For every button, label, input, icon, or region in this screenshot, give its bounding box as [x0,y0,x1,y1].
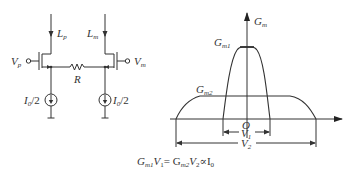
y-axis-label: Gm [254,15,267,29]
gm2-curve [176,96,316,119]
left-transistor [26,14,51,70]
gm1-label: Gm1 [214,36,231,50]
right-input-terminal-icon [125,59,129,63]
degeneration-resistor [50,64,107,70]
left-source-label: I0/2 [23,94,40,108]
gm2-label: Gm2 [196,83,213,97]
resistor-zigzag-icon [70,64,84,70]
right-current-label: Lm [86,27,98,41]
differential-pair-circuit: Lp Lm Vp Vm R I0/2 I0/2 [11,14,146,118]
right-source-label: I0/2 [112,94,129,108]
left-input-terminal-icon [26,59,30,63]
right-current-source [99,67,111,118]
left-current-source [45,67,57,118]
right-transistor [105,14,130,70]
figure-canvas: Lp Lm Vp Vm R I0/2 I0/2 Gm Gm1 Gm2 O V1 [0,0,354,180]
left-current-label: Lp [56,27,67,41]
right-input-label: Vm [134,55,146,69]
resistor-label: R [73,73,81,85]
formula-equation: Gm1V1= Gm2V2∝I0 [137,155,215,169]
transconductance-graph: Gm Gm1 Gm2 O V1 V2 [170,13,342,151]
left-input-label: Vp [11,55,22,69]
